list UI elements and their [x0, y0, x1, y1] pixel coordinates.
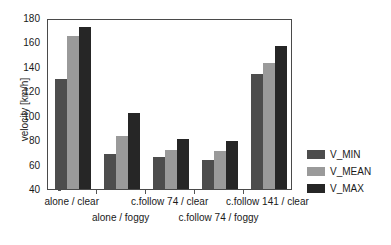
bar — [214, 151, 226, 189]
bar — [177, 139, 189, 189]
bar — [116, 136, 128, 189]
bar-series-container — [48, 20, 291, 189]
y-axis-tick-label: 100 — [14, 112, 40, 122]
y-axis-tick-labels: 406080100120140160180 — [14, 0, 40, 245]
bar — [67, 36, 79, 189]
legend-item-v-min: V_MIN — [307, 146, 389, 163]
x-axis-tick-mark — [96, 190, 97, 194]
bar — [104, 154, 116, 189]
bar-chart: velocity [km/h] 406080100120140160180 al… — [0, 0, 391, 245]
legend-label-v-max: V_MAX — [330, 183, 364, 194]
bar — [226, 141, 238, 189]
legend-item-v-mean: V_MEAN — [307, 163, 389, 180]
bar — [55, 79, 67, 189]
bar — [263, 63, 275, 189]
bar — [165, 150, 177, 189]
legend-swatch-icon-v-min — [307, 150, 325, 159]
bar — [275, 46, 287, 189]
y-axis-tick-label: 40 — [14, 185, 40, 195]
bar — [153, 157, 165, 189]
y-axis-tick-mark — [58, 190, 61, 191]
x-axis-category-label: c.follow 74 / clear — [131, 197, 208, 207]
bar — [251, 74, 263, 189]
y-axis-tick-label: 60 — [14, 161, 40, 171]
legend-swatch-icon-v-max — [307, 184, 325, 193]
x-axis-category-label: alone / foggy — [92, 213, 149, 223]
bar — [79, 27, 91, 189]
x-axis-category-label: c.follow 74 / foggy — [179, 213, 259, 223]
bar — [202, 160, 214, 189]
y-axis-tick-label: 80 — [14, 136, 40, 146]
plot-area — [47, 19, 292, 190]
y-axis-tick-label: 160 — [14, 38, 40, 48]
x-axis-tick-mark — [243, 190, 244, 194]
y-axis-tick-label: 120 — [14, 87, 40, 97]
x-axis-tick-mark — [194, 190, 195, 194]
legend: V_MIN V_MEAN V_MAX — [307, 146, 389, 197]
legend-label-v-mean: V_MEAN — [330, 166, 371, 177]
y-axis-tick-label: 180 — [14, 14, 40, 24]
x-axis-category-label: c.follow 141 / clear — [226, 197, 309, 207]
legend-swatch-icon-v-mean — [307, 167, 325, 176]
legend-item-v-max: V_MAX — [307, 180, 389, 197]
legend-label-v-min: V_MIN — [330, 149, 361, 160]
bar — [128, 113, 140, 189]
y-axis-tick-label: 140 — [14, 63, 40, 73]
x-axis-tick-mark — [145, 190, 146, 194]
x-axis-category-label: alone / clear — [45, 197, 99, 207]
